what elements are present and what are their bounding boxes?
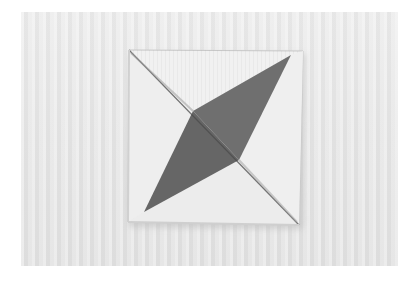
caption-cropped — [0, 270, 417, 281]
fabric-square-illustration — [21, 12, 398, 266]
photo-fabric-square — [21, 12, 398, 266]
